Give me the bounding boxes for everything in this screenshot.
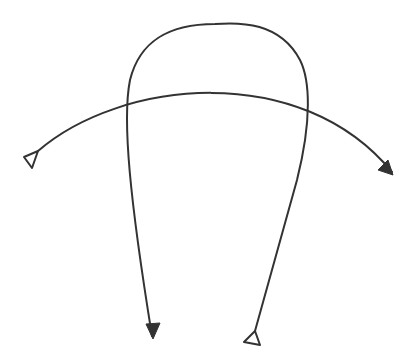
open-triangle-icon <box>244 331 260 345</box>
diagram-svg <box>0 0 416 361</box>
diagram-canvas <box>0 0 416 361</box>
open-triangle-icon <box>24 151 38 168</box>
horizontal-arc-path <box>38 93 392 172</box>
arch-loop-path <box>127 23 308 336</box>
arrowhead-icon <box>378 160 393 175</box>
arrowhead-icon <box>146 323 160 339</box>
